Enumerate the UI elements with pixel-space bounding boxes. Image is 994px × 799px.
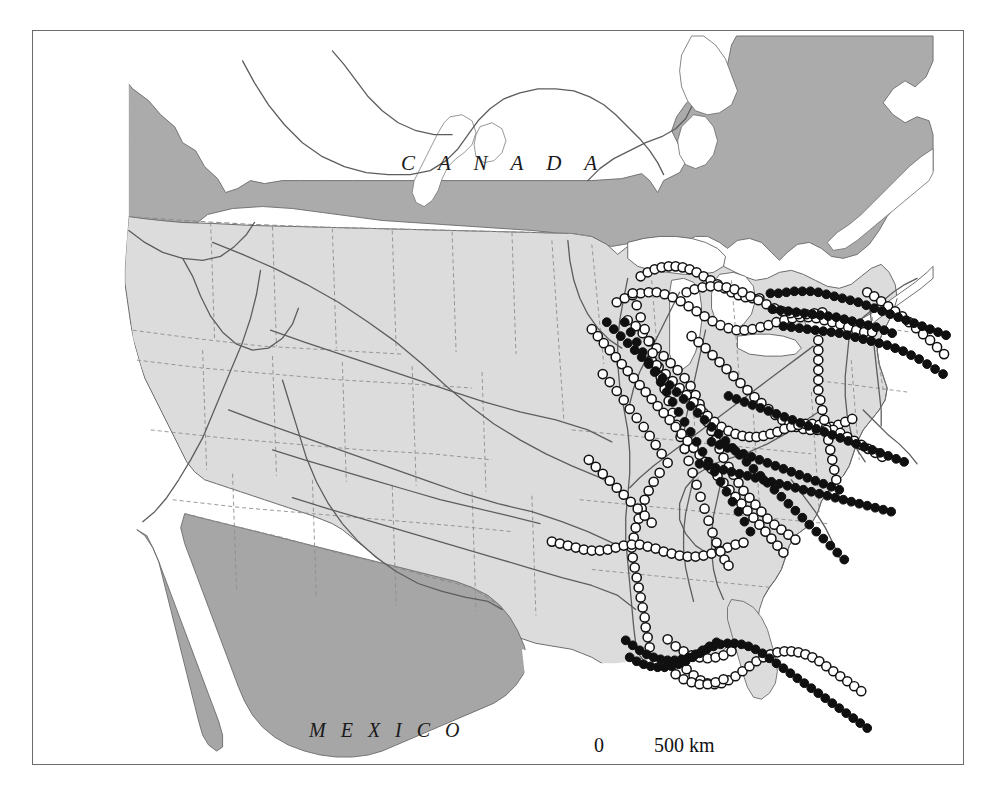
map-data-point xyxy=(863,724,872,733)
map-data-point xyxy=(891,344,900,353)
map-data-point xyxy=(657,449,666,458)
map-data-point xyxy=(795,470,804,479)
map-data-point xyxy=(856,319,865,328)
map-data-point xyxy=(686,428,695,437)
map-data-point xyxy=(630,346,639,355)
map-data-point xyxy=(719,675,728,684)
map-data-point xyxy=(605,377,614,386)
map-data-point xyxy=(723,443,732,452)
map-data-point xyxy=(839,495,848,504)
map-data-point xyxy=(640,325,649,334)
map-data-point xyxy=(640,495,649,504)
map-data-point xyxy=(708,528,717,537)
map-data-point xyxy=(820,428,829,437)
map-data-point xyxy=(598,369,607,378)
map-data-point xyxy=(771,461,780,470)
map-frame: C A N A D A M E X I C O 0 500 km xyxy=(32,30,964,765)
map-data-point xyxy=(693,409,702,418)
map-canvas xyxy=(33,31,963,764)
map-data-point xyxy=(827,482,836,491)
map-data-point xyxy=(632,338,641,347)
map-data-point xyxy=(830,292,839,301)
map-data-point xyxy=(684,456,693,465)
map-data-point xyxy=(644,337,653,346)
map-data-point xyxy=(939,370,948,379)
map-data-point xyxy=(820,415,829,424)
map-data-point xyxy=(828,431,837,440)
map-data-point xyxy=(800,309,809,318)
map-data-point xyxy=(886,310,895,319)
map-data-point xyxy=(759,475,768,484)
map-data-point xyxy=(732,395,741,404)
map-data-point xyxy=(680,418,689,427)
map-data-point xyxy=(714,430,723,439)
map-data-point xyxy=(698,447,707,456)
map-data-point xyxy=(787,323,796,332)
map-data-point xyxy=(647,518,656,527)
map-data-point xyxy=(806,287,815,296)
map-data-point xyxy=(828,455,837,464)
map-data-point xyxy=(880,326,889,335)
map-data-point xyxy=(871,503,880,512)
map-data-point xyxy=(711,463,720,472)
map-data-point xyxy=(620,318,629,327)
map-data-point xyxy=(756,404,765,413)
map-data-point xyxy=(814,375,823,384)
map-data-point xyxy=(888,329,897,338)
map-data-point xyxy=(746,527,755,536)
map-data-point xyxy=(727,467,736,476)
map-data-point xyxy=(884,451,893,460)
map-data-point xyxy=(780,413,789,422)
map-data-point xyxy=(840,315,849,324)
map-data-point xyxy=(791,483,800,492)
map-data-point xyxy=(782,288,791,297)
map-data-point xyxy=(775,479,784,488)
map-data-point xyxy=(777,492,786,501)
map-data-point xyxy=(715,440,724,449)
map-data-point xyxy=(855,499,864,508)
map-data-point xyxy=(902,316,911,325)
map-data-point xyxy=(887,507,896,516)
map-data-point xyxy=(763,458,772,467)
map-data-point xyxy=(776,306,785,315)
map-data-point xyxy=(686,402,695,411)
map-data-point xyxy=(783,481,792,490)
map-data-point xyxy=(724,392,733,401)
map-data-point xyxy=(808,310,817,319)
map-data-point xyxy=(735,469,744,478)
map-data-point xyxy=(804,422,813,431)
map-data-point xyxy=(844,436,853,445)
map-data-point xyxy=(848,414,857,423)
map-data-point xyxy=(815,489,824,498)
map-data-point xyxy=(674,408,683,417)
map-data-point xyxy=(636,593,645,602)
map-data-point xyxy=(814,288,823,297)
map-data-point xyxy=(641,623,650,632)
map-data-point xyxy=(878,307,887,316)
map-data-point xyxy=(910,319,919,328)
map-data-point xyxy=(748,401,757,410)
map-data-point xyxy=(840,555,849,564)
map-data-point xyxy=(819,479,828,488)
map-data-point xyxy=(811,326,820,335)
map-data-point xyxy=(634,583,643,592)
map-data-point xyxy=(774,289,783,298)
map-data-point xyxy=(673,365,682,374)
map-data-point xyxy=(650,368,659,377)
map-data-point xyxy=(854,298,863,307)
map-data-point xyxy=(862,301,871,310)
map-data-point xyxy=(816,395,825,404)
map-data-point xyxy=(731,446,740,455)
map-data-point xyxy=(643,633,652,642)
map-data-point xyxy=(818,405,827,414)
map-data-point xyxy=(918,322,927,331)
map-data-point xyxy=(632,301,641,310)
map-data-point xyxy=(743,471,752,480)
map-data-point xyxy=(939,350,948,359)
map-data-point xyxy=(798,287,807,296)
map-data-point xyxy=(686,381,695,390)
map-data-point xyxy=(680,373,689,382)
map-data-point xyxy=(863,501,872,510)
map-data-point xyxy=(728,497,737,506)
map-data-point xyxy=(843,331,852,340)
